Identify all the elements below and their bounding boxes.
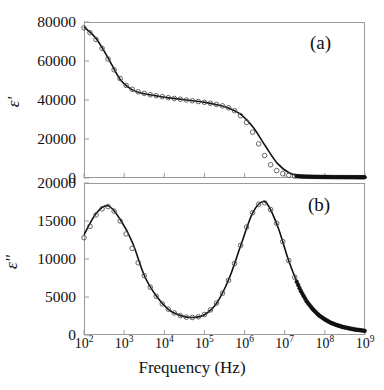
x-tick-2: 104 bbox=[155, 337, 174, 351]
x-tick-5: 107 bbox=[275, 337, 294, 351]
panel-b-data-canvas bbox=[0, 0, 384, 390]
figure-root: ε' (a) 020000400006000080000 ε'' (b) 050… bbox=[0, 0, 384, 390]
x-tick-1: 103 bbox=[115, 337, 134, 351]
x-tick-6: 108 bbox=[315, 337, 334, 351]
panel-b-data-point bbox=[362, 329, 366, 333]
x-tick-7: 109 bbox=[356, 337, 375, 351]
panel-b-fit-line bbox=[84, 201, 365, 331]
panel-b-data-point bbox=[130, 246, 135, 251]
x-axis-title: Frequency (Hz) bbox=[0, 358, 384, 378]
x-tick-3: 105 bbox=[195, 337, 214, 351]
x-tick-4: 106 bbox=[235, 337, 254, 351]
x-tick-0: 102 bbox=[75, 337, 94, 351]
panel-b-data-point bbox=[82, 235, 87, 240]
